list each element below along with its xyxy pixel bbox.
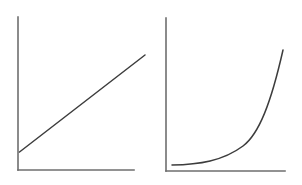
exponential-growth-curve — [172, 50, 283, 165]
linear-growth-line — [20, 55, 146, 152]
chart-figure — [0, 0, 302, 185]
linear-growth-chart-panel — [0, 0, 151, 185]
exponential-chart-svg — [151, 0, 302, 185]
linear-chart-svg — [0, 0, 151, 185]
exponential-growth-chart-panel — [151, 0, 302, 185]
